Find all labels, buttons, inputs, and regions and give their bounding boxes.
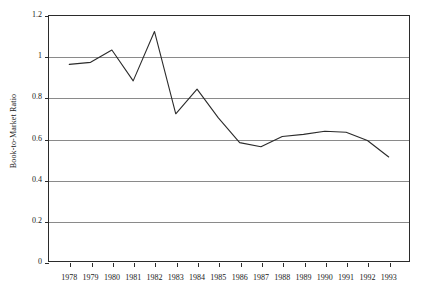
x-axis-tick-mark — [368, 263, 369, 267]
y-axis-tick-label: 0.4 — [8, 176, 42, 184]
series-line-chart — [48, 15, 410, 262]
x-axis-tick-mark — [134, 263, 135, 267]
y-axis-tick-label: 0.2 — [8, 217, 42, 225]
x-axis-tick-label: 1983 — [168, 274, 184, 282]
x-axis-tick-mark — [326, 263, 327, 267]
x-axis-tick-mark — [219, 263, 220, 267]
chart-container: Book-to-Market Ratio 00.20.40.60.811.219… — [0, 0, 433, 302]
x-axis-tick-mark — [177, 263, 178, 267]
x-axis-tick-label: 1993 — [381, 274, 397, 282]
y-axis-tick-label: 1.2 — [8, 11, 42, 19]
y-axis-tick-label: 1 — [8, 52, 42, 60]
x-axis-tick-mark — [92, 263, 93, 267]
x-axis-tick-label: 1986 — [232, 274, 248, 282]
x-axis-tick-mark — [241, 263, 242, 267]
x-axis-tick-label: 1985 — [210, 274, 226, 282]
x-axis-tick-label: 1981 — [125, 274, 141, 282]
x-axis-tick-label: 1978 — [61, 274, 77, 282]
x-axis-tick-label: 1989 — [296, 274, 312, 282]
x-axis-tick-mark — [390, 263, 391, 267]
y-axis-tick-label: 0.6 — [8, 135, 42, 143]
y-axis-tick-label: 0 — [8, 258, 42, 266]
x-axis-tick-mark — [198, 263, 199, 267]
x-axis-tick-label: 1979 — [83, 274, 99, 282]
x-axis-tick-mark — [262, 263, 263, 267]
x-axis-tick-label: 1988 — [274, 274, 290, 282]
x-axis-tick-mark — [305, 263, 306, 267]
y-axis-tick-label: 0.8 — [8, 93, 42, 101]
x-axis-tick-label: 1992 — [359, 274, 375, 282]
y-axis-tick-mark — [45, 263, 49, 264]
x-axis-tick-label: 1990 — [317, 274, 333, 282]
series-line-book-to-market — [69, 31, 388, 157]
x-axis-tick-label: 1987 — [253, 274, 269, 282]
x-axis-tick-label: 1984 — [189, 274, 205, 282]
x-axis-tick-mark — [283, 263, 284, 267]
x-axis-tick-mark — [155, 263, 156, 267]
x-axis-tick-mark — [347, 263, 348, 267]
x-axis-tick-label: 1980 — [104, 274, 120, 282]
x-axis-tick-mark — [70, 263, 71, 267]
x-axis-tick-label: 1982 — [146, 274, 162, 282]
x-axis-tick-mark — [113, 263, 114, 267]
x-axis-tick-label: 1991 — [338, 274, 354, 282]
